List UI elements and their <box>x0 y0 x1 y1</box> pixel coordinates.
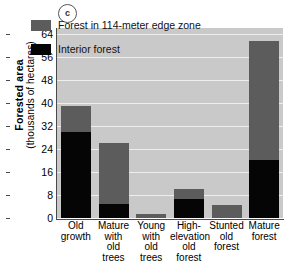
bar-segment-edge-zone <box>249 41 279 160</box>
bar-segment-edge-zone <box>174 189 204 199</box>
chart-figure: c Forested area (thousands of hectares) … <box>0 0 293 272</box>
y-tick-label: 32 <box>41 120 53 132</box>
y-tick-label: 40 <box>41 97 53 109</box>
bar-2 <box>136 214 166 218</box>
bar-1 <box>99 143 129 218</box>
y-tick-mark <box>6 195 10 196</box>
y-tick-mark <box>6 126 10 127</box>
legend-swatch-edge-zone <box>31 20 51 31</box>
bar-segment-edge-zone <box>212 205 242 218</box>
legend-label-edge-zone: Forest in 114-meter edge zone <box>58 20 201 31</box>
y-tick-mark <box>6 103 10 104</box>
chart-legend: Forest in 114-meter edge zone Interior f… <box>31 18 201 66</box>
x-axis-label-0: Oldgrowth <box>57 221 95 242</box>
y-tick-label: 8 <box>47 189 53 201</box>
x-axis-labels: OldgrowthMaturewitholdtreesYoungwitholdt… <box>57 221 283 271</box>
y-tick-label: 48 <box>41 74 53 86</box>
panel-label-text: c <box>65 9 70 18</box>
x-axis-label-3: High-elevationoldforest <box>170 221 208 263</box>
y-tick-mark <box>6 34 10 35</box>
y-tick-mark <box>6 218 10 219</box>
legend-label-interior-forest: Interior forest <box>58 44 120 55</box>
y-tick-label: 16 <box>41 166 53 178</box>
bar-segment-edge-zone <box>61 106 91 132</box>
bar-4 <box>212 205 242 218</box>
y-tick-mark <box>6 57 10 58</box>
x-axis-label-1: Maturewitholdtrees <box>95 221 133 263</box>
bar-segment-interior-forest <box>174 199 204 218</box>
y-tick-label: 24 <box>41 143 53 155</box>
x-axis-label-4: Stuntedoldforest <box>208 221 246 253</box>
y-tick-mark <box>6 172 10 173</box>
x-axis-label-5: Matureforest <box>245 221 283 242</box>
bar-5 <box>249 41 279 218</box>
legend-item-interior-forest: Interior forest <box>31 42 201 57</box>
bar-3 <box>174 189 204 218</box>
bar-segment-edge-zone <box>99 143 129 204</box>
y-tick-mark <box>6 149 10 150</box>
legend-swatch-interior-forest <box>31 44 51 55</box>
bar-0 <box>61 106 91 218</box>
y-axis-title-main: Forested area <box>13 59 25 130</box>
bar-segment-interior-forest <box>249 160 279 218</box>
bar-segment-edge-zone <box>136 214 166 218</box>
y-tick-label: 0 <box>47 212 53 224</box>
bar-segment-interior-forest <box>61 132 91 218</box>
bar-segment-interior-forest <box>99 204 129 218</box>
x-axis-label-2: Youngwitholdtrees <box>132 221 170 263</box>
y-tick-mark <box>6 80 10 81</box>
legend-item-edge-zone: Forest in 114-meter edge zone <box>31 18 201 33</box>
